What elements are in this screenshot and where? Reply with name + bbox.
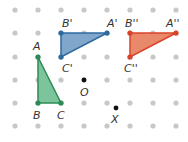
triangle-a2b2c2 bbox=[130, 33, 176, 57]
grid-dot bbox=[104, 54, 109, 59]
vertex-c1 bbox=[58, 54, 63, 59]
point-o bbox=[82, 78, 87, 83]
label-a1: A' bbox=[106, 17, 118, 30]
label-b1: B' bbox=[62, 17, 73, 30]
grid-dot bbox=[127, 77, 132, 82]
dot-grid-diagram: A B C A' B' C' A'' B'' C'' O X bbox=[0, 0, 188, 142]
vertex-a bbox=[35, 54, 40, 59]
grid-dot bbox=[173, 123, 178, 128]
grid-dot bbox=[173, 54, 178, 59]
label-c2: C'' bbox=[124, 62, 138, 75]
grid-dot bbox=[12, 30, 17, 35]
triangle-abc bbox=[38, 57, 61, 103]
vertex-c2 bbox=[127, 54, 132, 59]
grid-dot bbox=[12, 54, 17, 59]
grid-dot bbox=[104, 123, 109, 128]
grid-dot bbox=[81, 54, 86, 59]
grid-dot bbox=[104, 100, 109, 105]
grid-dot bbox=[127, 123, 132, 128]
triangle-a1b1c1 bbox=[61, 33, 107, 57]
grid-dot bbox=[173, 100, 178, 105]
label-b2: B'' bbox=[125, 17, 139, 30]
grid-dot bbox=[12, 100, 17, 105]
grid-dot bbox=[12, 7, 17, 12]
label-a: A bbox=[32, 40, 41, 53]
grid-dot bbox=[150, 100, 155, 105]
grid-dot bbox=[58, 77, 63, 82]
grid-dot bbox=[173, 77, 178, 82]
grid-dot bbox=[104, 7, 109, 12]
grid-dot bbox=[150, 54, 155, 59]
label-b: B bbox=[33, 109, 41, 122]
grid-dot bbox=[173, 7, 178, 12]
label-c: C bbox=[57, 109, 65, 122]
grid-dot bbox=[127, 100, 132, 105]
vertex-a1 bbox=[104, 30, 109, 35]
vertex-c bbox=[58, 100, 63, 105]
grid-dot bbox=[12, 123, 17, 128]
grid-dot bbox=[58, 7, 63, 12]
grid-dot bbox=[127, 7, 132, 12]
grid-dot bbox=[81, 123, 86, 128]
grid-dot bbox=[35, 123, 40, 128]
grid-dot bbox=[58, 123, 63, 128]
grid-dot bbox=[150, 77, 155, 82]
grid-dot bbox=[150, 7, 155, 12]
label-x: X bbox=[110, 113, 119, 126]
point-x bbox=[114, 106, 119, 111]
label-o: O bbox=[80, 86, 89, 99]
grid-dot bbox=[12, 77, 17, 82]
vertex-b1 bbox=[58, 30, 63, 35]
vertex-a2 bbox=[173, 30, 178, 35]
grid-dot bbox=[81, 7, 86, 12]
grid-dot bbox=[150, 123, 155, 128]
grid-dot bbox=[104, 77, 109, 82]
label-a2: A'' bbox=[165, 17, 180, 30]
label-c1: C' bbox=[62, 62, 73, 75]
vertex-b2 bbox=[127, 30, 132, 35]
grid-dot bbox=[35, 30, 40, 35]
vertex-b bbox=[35, 100, 40, 105]
grid-dot bbox=[81, 100, 86, 105]
grid-dot bbox=[35, 7, 40, 12]
